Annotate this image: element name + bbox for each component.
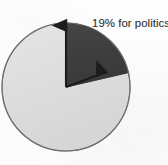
pie-chart-figure: 19% for politics [0,0,168,165]
slice-callout-label: 19% for politics [92,17,168,30]
